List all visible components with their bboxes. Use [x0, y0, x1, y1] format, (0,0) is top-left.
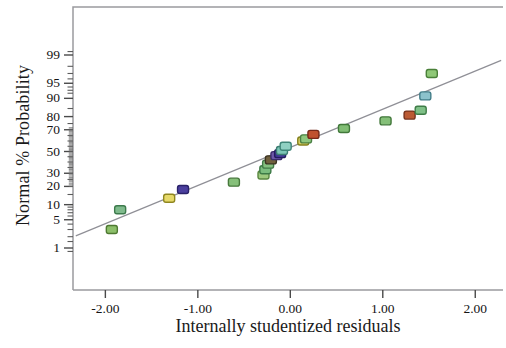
x-axis-ticks	[105, 290, 475, 298]
y-tick-label: 20	[28, 179, 60, 193]
x-tick-label: -2.00	[75, 302, 135, 316]
data-point-marker[interactable]	[415, 106, 426, 114]
data-point-marker[interactable]	[228, 178, 239, 186]
x-tick-label: 0.00	[260, 302, 320, 316]
y-tick-label: 70	[28, 123, 60, 137]
data-point-marker[interactable]	[280, 142, 291, 150]
data-point-marker[interactable]	[380, 117, 391, 125]
y-tick-label: 95	[28, 76, 60, 90]
data-point-marker[interactable]	[338, 125, 349, 133]
data-point-marker[interactable]	[420, 92, 431, 100]
normal-probability-plot: Normal % Probability Internally studenti…	[0, 0, 506, 348]
y-tick-label: 99	[28, 48, 60, 62]
data-point-marker[interactable]	[164, 194, 175, 202]
data-points	[106, 69, 437, 233]
y-tick-label: 50	[28, 145, 60, 159]
y-tick-label: 90	[28, 91, 60, 105]
data-point-marker[interactable]	[308, 130, 319, 138]
data-point-marker[interactable]	[426, 69, 437, 77]
x-tick-label: -1.00	[168, 302, 228, 316]
x-tick-label: 1.00	[353, 302, 413, 316]
y-axis-ticks	[64, 52, 73, 252]
x-tick-label: 2.00	[445, 302, 505, 316]
data-point-marker[interactable]	[115, 206, 126, 214]
y-tick-label: 10	[28, 198, 60, 212]
data-point-marker[interactable]	[178, 185, 189, 193]
data-point-marker[interactable]	[404, 111, 415, 119]
x-axis-title: Internally studentized residuals	[73, 316, 503, 337]
y-tick-label: 1	[28, 241, 60, 255]
y-tick-label: 5	[28, 213, 60, 227]
plot-canvas	[0, 0, 506, 348]
data-point-marker[interactable]	[106, 226, 117, 234]
